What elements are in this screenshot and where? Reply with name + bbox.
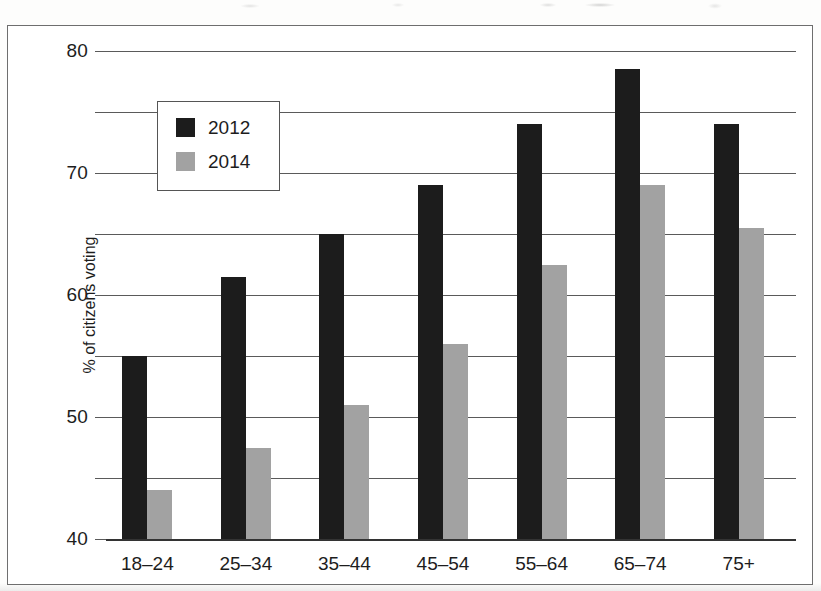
bar <box>542 265 567 540</box>
y-axis-tick-label: 40 <box>66 528 88 550</box>
y-axis-tick-label: 50 <box>66 406 88 428</box>
x-axis-tick-label: 75+ <box>679 553 799 575</box>
scan-artifact-top <box>0 0 821 14</box>
y-axis-tick-label: 70 <box>66 162 88 184</box>
bar <box>615 69 640 539</box>
legend-swatch-icon <box>176 118 195 137</box>
y-axis-tick-label: 80 <box>66 40 88 62</box>
bar <box>122 356 147 539</box>
y-axis-tick-mark: 0 <box>95 539 106 540</box>
bar <box>319 234 344 539</box>
y-axis-tick-mark: 30 <box>95 356 106 357</box>
bar <box>418 185 443 539</box>
chart-legend: 2012 2014 <box>157 101 280 191</box>
y-axis-tick-mark: 20 <box>95 417 106 418</box>
bar <box>147 490 172 539</box>
y-axis-tick-mark: 10 <box>95 478 106 479</box>
bar <box>246 448 271 540</box>
x-axis-baseline <box>106 539 796 541</box>
legend-swatch-icon <box>176 152 195 171</box>
y-axis-tick-mark: 60 <box>95 173 106 174</box>
bar-group <box>517 51 567 539</box>
bar <box>739 228 764 539</box>
bar-group <box>418 51 468 539</box>
chart-figure-frame: % of citizens voting 80706050403020100 1… <box>7 25 813 585</box>
bar-group <box>319 51 369 539</box>
bar <box>443 344 468 539</box>
y-axis-tick-mark: 70 <box>95 112 106 113</box>
bar <box>344 405 369 539</box>
legend-entry-2012: 2012 <box>176 118 250 137</box>
scanned-page: % of citizens voting 80706050403020100 1… <box>0 0 821 591</box>
bar-group <box>615 51 665 539</box>
y-axis-tick-mark: 80 <box>95 51 106 52</box>
bar <box>640 185 665 539</box>
bar-group <box>714 51 764 539</box>
bar <box>221 277 246 539</box>
legend-label: 2014 <box>208 152 250 171</box>
y-axis-tick-mark: 40 <box>95 295 106 296</box>
legend-entry-2014: 2014 <box>176 152 250 171</box>
bar <box>517 124 542 539</box>
legend-label: 2012 <box>208 118 250 137</box>
bar <box>714 124 739 539</box>
y-axis-tick-mark: 50 <box>95 234 106 235</box>
y-axis-tick-label: 60 <box>66 284 88 306</box>
